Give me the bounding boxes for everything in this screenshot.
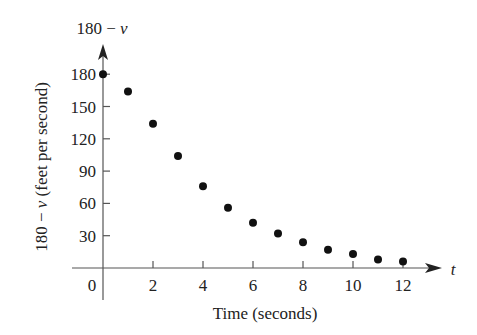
scatter-plot: 306090120150180 24681012 180 − v t 0 Tim… [0, 0, 477, 335]
x-tick-label: 10 [345, 276, 362, 295]
data-point [224, 204, 232, 212]
x-tick-label: 4 [199, 276, 208, 295]
data-point [199, 182, 207, 190]
y-axis-top-label: 180 − v [76, 19, 128, 38]
x-tick-label: 6 [249, 276, 258, 295]
data-points [99, 70, 407, 265]
y-tick-label: 150 [71, 98, 97, 117]
y-tick-label: 90 [79, 162, 96, 181]
data-point [149, 120, 157, 128]
x-axis [72, 263, 442, 273]
x-tick-label: 2 [149, 276, 158, 295]
y-tick-label: 120 [71, 130, 97, 149]
chart-container: 306090120150180 24681012 180 − v t 0 Tim… [0, 0, 477, 335]
y-tick-label: 180 [71, 65, 97, 84]
y-tick-label: 60 [79, 194, 96, 213]
data-point [374, 255, 382, 263]
data-point [99, 70, 107, 78]
x-tick-label: 8 [299, 276, 308, 295]
origin-label: 0 [88, 276, 97, 295]
data-point [324, 246, 332, 254]
data-point [274, 230, 282, 238]
data-point [299, 238, 307, 246]
data-point [249, 219, 257, 227]
x-ticks: 24681012 [149, 261, 412, 295]
y-axis [98, 44, 108, 300]
data-point [174, 152, 182, 160]
y-axis-title: 180 − v (feet per second) [32, 82, 51, 252]
data-point [124, 87, 132, 95]
x-axis-title: Time (seconds) [213, 304, 318, 323]
y-ticks: 306090120150180 [71, 65, 111, 246]
x-tick-label: 12 [395, 276, 412, 295]
y-tick-label: 30 [79, 227, 96, 246]
x-axis-end-label: t [451, 260, 457, 279]
data-point [399, 258, 407, 266]
data-point [349, 250, 357, 258]
